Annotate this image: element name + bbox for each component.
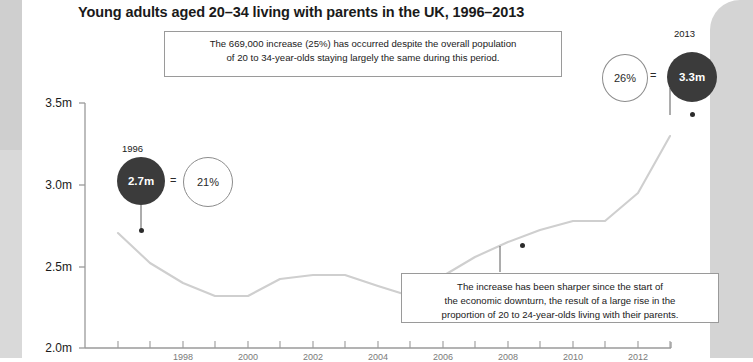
callout-downturn-line2: the economic downturn, the result of a l… [409,294,711,308]
annotation-end-anchor-dot [690,112,695,117]
callout-population-line2: of 20 to 34-year-olds staying largely th… [172,51,554,65]
x-tick-2006: 2006 [423,352,463,362]
annotation-start-year: 1996 [122,143,143,154]
annotation-end-value-bubble: 3.3m [667,52,717,102]
annotation-start-percent-bubble: 21% [183,157,233,207]
page-edge-left [0,0,22,358]
callout-population: The 669,000 increase (25%) has occurred … [164,31,562,77]
callout-downturn-anchor-dot [520,243,525,248]
annotation-start-value-bubble: 2.7m [117,157,165,205]
callout-downturn-line1: The increase has been sharper since the … [409,280,711,294]
y-tick-2-0m: 2.0m [26,341,72,355]
x-tick-2002: 2002 [293,352,333,362]
annotation-end-year: 2013 [674,28,695,39]
annotation-end-equals: = [650,69,656,81]
annotation-start-anchor-dot [139,228,144,233]
chart-sheet: Young adults aged 20–34 living with pare… [22,0,710,358]
y-tick-3-0m: 3.0m [26,178,72,192]
y-tick-3-5m: 3.5m [26,96,72,110]
annotation-start-equals: = [170,174,176,186]
x-tick-2010: 2010 [553,352,593,362]
y-tick-2-5m: 2.5m [26,260,72,274]
x-tick-2012: 2012 [618,352,658,362]
callout-population-line1: The 669,000 increase (25%) has occurred … [172,37,554,51]
x-tick-2004: 2004 [358,352,398,362]
callout-downturn: The increase has been sharper since the … [401,273,719,323]
x-tick-1998: 1998 [163,352,203,362]
annotation-end-percent-bubble: 26% [602,54,648,102]
x-tick-2008: 2008 [488,352,528,362]
callout-downturn-line3: proportion of 20 to 24-year-olds living … [409,308,711,322]
x-tick-2000: 2000 [228,352,268,362]
